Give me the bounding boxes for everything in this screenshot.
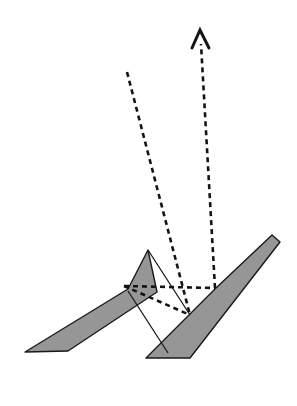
ray-reflection-diagram — [0, 0, 297, 406]
figure-root — [0, 0, 297, 406]
